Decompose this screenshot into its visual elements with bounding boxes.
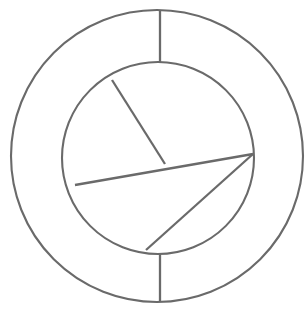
lower-right-diagonal-chord	[146, 154, 253, 250]
upper-left-chord	[112, 80, 165, 164]
left-horizontal-chord	[75, 154, 253, 185]
concentric-circle-sector-diagram	[0, 0, 308, 310]
diagram-canvas	[0, 0, 308, 310]
outer-circle	[11, 10, 303, 302]
